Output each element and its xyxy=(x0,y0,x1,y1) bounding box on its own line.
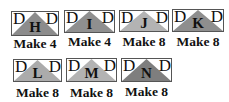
flying-geese-unit: D D N xyxy=(121,58,172,82)
flying-geese-unit: D D L xyxy=(13,59,62,82)
quantity-label: Make 4 xyxy=(11,36,59,52)
unit-letter: H xyxy=(12,20,58,35)
unit-letter: I xyxy=(65,17,114,32)
unit-letter: L xyxy=(14,66,61,81)
quantity-label: Make 8 xyxy=(121,84,172,100)
unit-letter: J xyxy=(120,16,168,31)
flying-geese-unit: D D H xyxy=(11,11,59,36)
flying-geese-unit: D D K xyxy=(172,9,224,32)
quantity-label: Make 4 xyxy=(64,34,115,50)
unit-letter: K xyxy=(173,16,223,31)
unit-letter: N xyxy=(122,66,171,81)
quantity-label: Make 8 xyxy=(172,34,224,50)
quantity-label: Make 8 xyxy=(13,85,62,101)
quantity-label: Make 8 xyxy=(119,34,169,50)
flying-geese-unit: D D M xyxy=(66,58,117,82)
flying-geese-unit: D D I xyxy=(64,10,115,33)
flying-geese-unit: D D J xyxy=(119,10,169,32)
quantity-label: Make 8 xyxy=(66,85,117,101)
unit-letter: M xyxy=(67,66,116,81)
